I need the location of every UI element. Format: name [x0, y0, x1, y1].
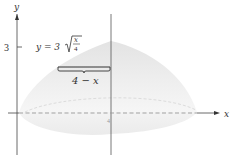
x-tick-label: 4 — [107, 118, 110, 124]
solid-of-revolution-figure: 4 y x 3 y = 3 x 4 4 − x — [0, 0, 235, 164]
y-axis-label: y — [13, 2, 20, 12]
x-axis-label: x — [224, 109, 229, 119]
radical-numerator: x — [74, 36, 78, 44]
radius-label: 4 − x — [71, 75, 99, 86]
y-axis-arrow-icon — [15, 14, 19, 20]
radical-denominator: 4 — [74, 45, 78, 53]
x-axis-arrow-icon — [214, 111, 220, 115]
curve-equation-prefix: y = 3 — [35, 42, 60, 52]
y-tick-label: 3 — [4, 42, 9, 53]
